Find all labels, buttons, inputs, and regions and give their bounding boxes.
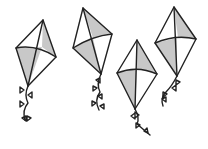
kites-illustration (0, 0, 208, 149)
kite-1 (16, 20, 56, 121)
kites-drawing (0, 0, 208, 149)
kite-4 (155, 7, 196, 106)
kite-2 (73, 8, 112, 110)
kite-3 (117, 40, 157, 135)
